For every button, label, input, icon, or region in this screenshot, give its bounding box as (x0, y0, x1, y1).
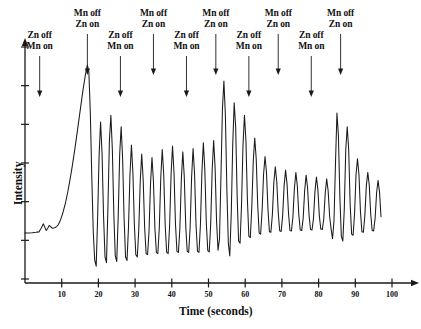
annotation-label: Zn offMn on (107, 30, 133, 51)
annotation-label-line2: Mn on (236, 41, 262, 52)
annotation-label-line1: Zn off (107, 30, 133, 41)
chart-plot-area (0, 0, 421, 329)
x-axis-tick-label: 90 (351, 290, 359, 299)
annotation-arrow-head (246, 91, 251, 98)
annotation-label: Zn offMn on (27, 30, 53, 51)
annotation-label: Mn offZn on (265, 8, 292, 29)
annotation-label-line2: Zn on (140, 19, 167, 30)
annotation-label-line1: Mn off (202, 8, 229, 19)
annotation-label-line1: Mn off (327, 8, 354, 19)
annotation-label-line2: Zn on (327, 19, 354, 30)
annotation-label-line2: Mn on (107, 41, 133, 52)
annotation-label-line1: Zn off (298, 30, 324, 41)
annotation-label-line2: Mn on (27, 41, 53, 52)
annotation-label: Mn offZn on (74, 8, 101, 29)
annotation-label-line1: Zn off (236, 30, 262, 41)
annotation-arrow-head (184, 91, 189, 98)
x-axis-tick-label: 80 (315, 290, 323, 299)
annotation-arrow-head (276, 69, 281, 76)
intensity-time-chart: Zn offMn onMn offZn onZn offMn onMn offZ… (0, 0, 421, 329)
annotation-label: Mn offZn on (202, 8, 229, 29)
x-axis-tick-label: 50 (205, 290, 213, 299)
annotation-label-line1: Mn off (140, 8, 167, 19)
annotation-arrow-head (338, 69, 343, 76)
x-axis-tick-label: 30 (131, 290, 139, 299)
chart-axes (21, 38, 419, 288)
x-axis-tick-label: 40 (168, 290, 176, 299)
annotation-arrow-head (118, 91, 123, 98)
annotation-label-line1: Zn off (173, 30, 199, 41)
annotation-label-line1: Mn off (74, 8, 101, 19)
annotation-label-line2: Mn on (173, 41, 199, 52)
annotation-label-line1: Zn off (27, 30, 53, 41)
x-axis-arrowhead (411, 280, 419, 286)
annotation-arrow-head (37, 91, 42, 98)
annotation-label: Zn offMn on (173, 30, 199, 51)
annotation-label-line2: Zn on (74, 19, 101, 30)
x-axis-tick-label: 60 (241, 290, 249, 299)
x-axis-tick-label: 100 (386, 290, 398, 299)
annotation-label: Mn offZn on (140, 8, 167, 29)
annotation-label: Zn offMn on (298, 30, 324, 51)
intensity-trace-line (25, 65, 381, 266)
x-axis-tick-label: 70 (278, 290, 286, 299)
x-axis-tick-label: 20 (94, 290, 102, 299)
annotation-arrow-head (151, 69, 156, 76)
annotation-label-line1: Mn off (265, 8, 292, 19)
annotation-label: Zn offMn on (236, 30, 262, 51)
annotation-label-line2: Zn on (202, 19, 229, 30)
y-axis-title: Intensity (12, 162, 24, 205)
annotation-label-line2: Zn on (265, 19, 292, 30)
x-axis-tick-label: 10 (58, 290, 66, 299)
x-axis-title: Time (seconds) (179, 305, 253, 317)
annotation-arrow-head (309, 91, 314, 98)
annotation-arrow-head (213, 69, 218, 76)
annotation-label-line2: Mn on (298, 41, 324, 52)
annotation-label: Mn offZn on (327, 8, 354, 29)
